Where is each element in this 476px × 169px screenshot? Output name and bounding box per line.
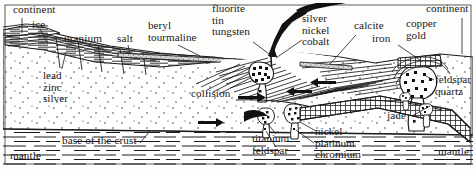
label-group-lead: lead zinc silver bbox=[43, 70, 68, 105]
label-tungsten: tungsten bbox=[212, 26, 250, 38]
label-jade: jade bbox=[387, 110, 406, 122]
label-group-nickel: nickel platinum chromium bbox=[315, 126, 361, 161]
geology-cross-section-figure: continent ice uranium salt beryl tourmal… bbox=[0, 0, 476, 169]
label-chromium: chromium bbox=[315, 149, 361, 161]
label-mantle-right: mantle bbox=[438, 146, 469, 158]
label-group-titanium: titanium feldspar bbox=[252, 133, 289, 156]
label-base-of-the-crust: base of the crust bbox=[62, 135, 137, 147]
label-titanium: titanium bbox=[252, 133, 289, 145]
label-gold: gold bbox=[406, 30, 436, 42]
label-nickel-bottom: nickel bbox=[315, 126, 361, 138]
label-feldspar-right: feldspar bbox=[435, 74, 471, 86]
label-iron: iron bbox=[372, 33, 390, 45]
label-copper: copper bbox=[406, 18, 436, 30]
label-continent-left: continent bbox=[13, 4, 56, 16]
label-tourmaline: tourmaline bbox=[148, 32, 196, 44]
label-fluorite: fluorite bbox=[212, 3, 250, 15]
label-calcite: calcite bbox=[354, 20, 384, 32]
label-beryl: beryl bbox=[148, 20, 196, 32]
label-silver-left: silver bbox=[43, 93, 68, 105]
label-group-silver: silver nickel cobalt bbox=[302, 13, 329, 48]
label-cobalt: cobalt bbox=[302, 36, 329, 48]
label-continent-right: continent bbox=[426, 3, 469, 15]
label-feldspar-bottom: feldspar bbox=[252, 145, 289, 157]
label-silver: silver bbox=[302, 13, 329, 25]
label-group-beryl: beryl tourmaline bbox=[148, 20, 196, 43]
label-collision: collision bbox=[191, 88, 230, 100]
label-mantle-left: mantle bbox=[10, 150, 41, 162]
label-group-fluorite: fluorite tin tungsten bbox=[212, 3, 250, 38]
label-salt: salt bbox=[117, 33, 133, 45]
label-lead: lead bbox=[43, 70, 68, 82]
label-ice: ice bbox=[32, 19, 45, 31]
label-group-copper: copper gold bbox=[406, 18, 436, 41]
label-quartz: quartz bbox=[435, 86, 471, 98]
label-uranium: uranium bbox=[64, 33, 102, 45]
label-group-feldspar-quartz: feldspar quartz bbox=[435, 74, 471, 97]
